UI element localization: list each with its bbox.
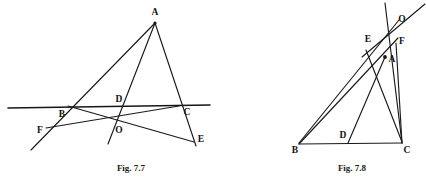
- point-label-f: F: [37, 125, 43, 135]
- point-label-b-fig78: B: [292, 145, 299, 155]
- figure-7-8: O E F A D B C Fig. 7.8: [292, 3, 425, 173]
- figure-board: A B C D O E F Fig. 7.7: [0, 0, 426, 187]
- point-label-f-fig78: F: [399, 36, 405, 46]
- point-label-o: O: [115, 125, 122, 135]
- point-label-e: E: [198, 134, 204, 144]
- point-label-o-fig78: O: [398, 14, 405, 24]
- point-label-a-fig78: A: [389, 54, 396, 64]
- ray-through-o: [362, 4, 425, 57]
- point-label-d-fig78: D: [340, 130, 347, 140]
- vertex-dot-a-fig78: [383, 55, 387, 59]
- figure-caption-7-7: Fig. 7.7: [117, 163, 146, 173]
- line-f-to-c: [46, 106, 179, 128]
- point-label-c: C: [184, 107, 191, 117]
- horizontal-transversal-line: [8, 105, 210, 108]
- figure-caption-7-8: Fig. 7.8: [338, 163, 367, 173]
- point-label-d: D: [116, 94, 123, 104]
- base-bc-line: [299, 143, 402, 144]
- geometry-figures-canvas: A B C D O E F Fig. 7.7: [0, 0, 426, 187]
- point-label-e-fig78: E: [365, 34, 371, 44]
- cevian-a-to-d: [348, 57, 385, 143]
- vertex-dot-a: [153, 21, 156, 24]
- side-ab-extended-line: [31, 23, 155, 150]
- point-label-c-fig78: C: [404, 145, 411, 155]
- point-label-b: B: [59, 109, 66, 119]
- figure-7-7: A B C D O E F Fig. 7.7: [8, 7, 210, 173]
- point-label-a: A: [152, 7, 159, 17]
- ray-b-to-f: [299, 38, 398, 144]
- side-ac-extended-line: [155, 23, 196, 146]
- line-b-to-e: [68, 106, 194, 142]
